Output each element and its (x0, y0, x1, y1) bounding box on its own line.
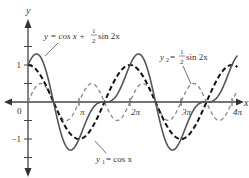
x-tick-label: π (80, 107, 85, 117)
annotation-y2: y 2 = 1 2 sin 2x (159, 48, 208, 84)
annotation-y1-pointer (95, 141, 106, 153)
x-tick-label: 2π (131, 107, 141, 117)
annotation-y2-y: y (159, 52, 164, 62)
x-axis-arrow-left (4, 99, 12, 106)
annotation-y2-pointer (183, 66, 191, 84)
svg-text:y = cos x +: y = cos x + (43, 31, 85, 41)
annotation-sum-pointer (45, 43, 58, 56)
annotation-y1: y 1 = cos x (95, 141, 133, 165)
annotation-y1-sub: 1 (102, 159, 105, 165)
y-tick-label: −1 (11, 134, 21, 144)
annotation-y2-sub: 2 (166, 57, 169, 63)
annotation-y2-eq: = (170, 52, 175, 62)
x-axis-arrow-right (236, 99, 244, 106)
y-axis-label: y (25, 5, 31, 16)
y-tick-label: 1 (17, 60, 22, 70)
annotation-sum-num: 1 (92, 27, 96, 35)
x-axis-label: x (243, 97, 249, 108)
origin-label: 0 (17, 106, 22, 116)
annotation-y2-tail: sin 2x (186, 52, 208, 62)
x-tick-label: 4π (233, 107, 243, 117)
y-axis-arrow-down (25, 168, 32, 177)
annotation-sum: y = cos x + 1 2 sin 2x (43, 27, 120, 56)
annotation-sum-lead: y = cos x + (43, 31, 85, 41)
annotation-sum-den: 2 (92, 37, 96, 45)
annotation-sum-tail: sin 2x (98, 31, 120, 41)
annotation-y2-den: 2 (180, 58, 184, 66)
y-axis-arrow-up (25, 19, 32, 28)
chart: π2π3π4π 1−1 y x 0 y = cos x + 1 2 sin 2x… (0, 0, 249, 178)
annotation-y1-y: y (95, 154, 100, 164)
annotation-y2-num: 1 (180, 48, 184, 56)
annotation-y1-tail: = cos x (106, 154, 133, 164)
